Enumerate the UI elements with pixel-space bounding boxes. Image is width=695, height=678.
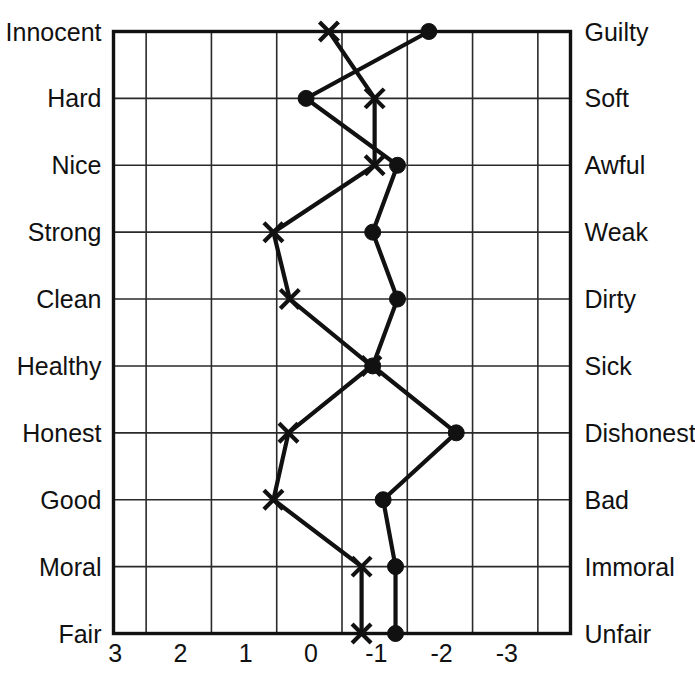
right-label-soft: Soft bbox=[585, 84, 630, 112]
left-label-good: Good bbox=[40, 486, 101, 514]
data-point-dot-marker bbox=[448, 425, 464, 441]
data-point-dot-marker bbox=[421, 24, 437, 40]
data-point-dot-marker bbox=[389, 291, 405, 307]
right-label-sick: Sick bbox=[585, 352, 633, 380]
x-tick-label: -3 bbox=[496, 639, 518, 667]
data-point-dot-marker bbox=[389, 157, 405, 173]
left-label-nice: Nice bbox=[51, 151, 101, 179]
left-label-hard: Hard bbox=[47, 84, 101, 112]
right-label-dirty: Dirty bbox=[585, 285, 637, 313]
right-label-weak: Weak bbox=[585, 218, 649, 246]
semantic-differential-chart: InnocentHardNiceStrongCleanHealthyHonest… bbox=[0, 0, 695, 678]
x-tick-label: -1 bbox=[365, 639, 387, 667]
left-label-fair: Fair bbox=[58, 620, 101, 648]
data-point-dot-marker bbox=[365, 358, 381, 374]
x-tick-label: 1 bbox=[239, 639, 253, 667]
data-point-dot-marker bbox=[365, 224, 381, 240]
right-label-immoral: Immoral bbox=[585, 553, 675, 581]
x-tick-label: 3 bbox=[108, 639, 122, 667]
right-label-awful: Awful bbox=[585, 151, 646, 179]
data-point-dot-marker bbox=[375, 492, 391, 508]
x-tick-label: 2 bbox=[173, 639, 187, 667]
x-tick-label: 0 bbox=[304, 639, 318, 667]
left-label-healthy: Healthy bbox=[17, 352, 102, 380]
left-label-strong: Strong bbox=[28, 218, 102, 246]
right-label-dishonest: Dishonest bbox=[585, 419, 695, 447]
x-tick-label: -2 bbox=[430, 639, 452, 667]
left-label-honest: Honest bbox=[22, 419, 101, 447]
left-label-clean: Clean bbox=[36, 285, 101, 313]
right-label-bad: Bad bbox=[585, 486, 629, 514]
left-label-innocent: Innocent bbox=[6, 18, 102, 46]
right-label-guilty: Guilty bbox=[585, 18, 649, 46]
data-point-dot-marker bbox=[388, 626, 404, 642]
data-point-dot-marker bbox=[388, 559, 404, 575]
right-label-unfair: Unfair bbox=[585, 620, 652, 648]
left-label-moral: Moral bbox=[39, 553, 102, 581]
chart-canvas: InnocentHardNiceStrongCleanHealthyHonest… bbox=[0, 0, 695, 678]
data-point-dot-marker bbox=[298, 90, 314, 106]
